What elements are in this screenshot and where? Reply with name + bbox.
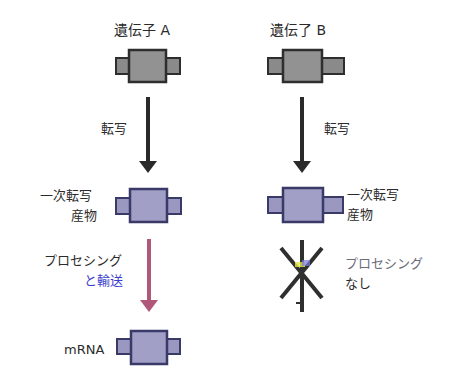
gene-a-primary-label-line1: 一次転写 — [40, 187, 92, 204]
gene-a-processing-label-line2: と輸送 — [84, 272, 123, 289]
gene-b-processing-label-line1: プロセシング — [345, 255, 423, 272]
gene-b-blocked-processing-icon — [281, 240, 322, 312]
gene-a-transcription-arrow — [139, 97, 157, 173]
gene-a-title: 遺伝子 A — [114, 22, 170, 39]
gene-a-transcription-label: 転写 — [101, 120, 127, 137]
gene-b-dna-shape — [268, 50, 344, 82]
gene-a-primary-label-line2: 産物 — [71, 207, 97, 224]
gene-b-primary-label-line2: 産物 — [347, 206, 373, 223]
gene-b-primary-transcript-shape — [268, 188, 343, 222]
gene-a-mrna-label: mRNA — [64, 341, 104, 358]
gene-a-processing-label-line1: プロセシング — [44, 252, 122, 269]
gene-a-primary-transcript-shape — [116, 189, 181, 222]
gene-b-processing-label-line2: なし — [345, 275, 371, 292]
gene-a-dna-shape — [116, 50, 180, 82]
gene-b-primary-label-line1: 一次転写 — [347, 186, 399, 203]
gene-b-transcription-label: 転写 — [324, 120, 350, 137]
gene-a-processing-arrow — [140, 239, 158, 312]
gene-b-title: 遺伝了 B — [270, 22, 326, 39]
gene-b-transcription-arrow — [293, 97, 311, 173]
gene-a-mrna-shape — [117, 331, 180, 364]
